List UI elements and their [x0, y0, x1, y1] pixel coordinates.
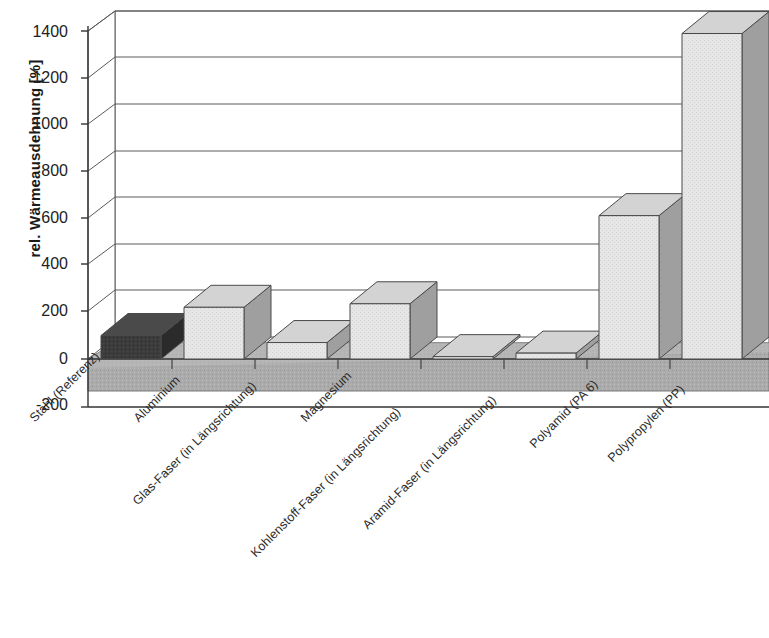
chart-left-depth-wall: [88, 11, 115, 359]
bar-7: [682, 12, 769, 359]
chart-container: rel. Wärmeausdehnung [%] 1400 1200 1000 …: [0, 0, 769, 638]
bar-6: [599, 194, 686, 359]
y-axis: [81, 26, 88, 407]
bar-1: [184, 285, 271, 359]
bar-3: [350, 282, 437, 359]
plot-area: [0, 0, 769, 430]
